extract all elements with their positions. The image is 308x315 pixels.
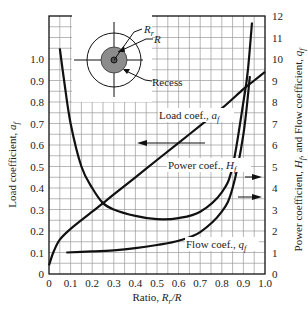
- inset-label-r: R: [153, 33, 161, 45]
- inset-label-recess: Recess: [152, 76, 183, 88]
- annotation-power: Power coef., Hf: [167, 158, 262, 180]
- y-right-tick-label: 4: [272, 182, 278, 194]
- x-tick-label: 0.5: [150, 277, 164, 289]
- y-left-tick-labels: 00.10.20.30.40.50.60.70.80.91.0: [30, 53, 44, 280]
- annotation-flow: Flow coef., qf: [185, 194, 262, 253]
- y-right-axis-title: Power coefficient, Hf, and Flow coeffici…: [292, 47, 307, 252]
- y-right-tick-label: 6: [272, 139, 278, 151]
- y-right-tick-label: 8: [272, 96, 278, 108]
- y-left-tick-label: 0.3: [30, 204, 44, 216]
- y-left-tick-label: 0.8: [30, 96, 44, 108]
- y-left-tick-label: 0.1: [30, 247, 44, 259]
- y-right-tick-label: 5: [272, 161, 278, 173]
- x-tick-label: 0: [46, 277, 52, 289]
- y-left-tick-label: 0.4: [30, 182, 44, 194]
- y-left-tick-label: 0.2: [30, 225, 44, 237]
- y-right-tick-label: 3: [272, 204, 278, 216]
- chart: 00.10.20.30.40.50.60.70.80.91.0 00.10.20…: [0, 0, 308, 315]
- x-tick-label: 0.9: [237, 277, 251, 289]
- y-left-tick-label: 0.7: [30, 118, 44, 130]
- y-left-tick-label: 1.0: [30, 53, 44, 65]
- annotation-load: Load coef., af: [137, 108, 234, 146]
- y-right-tick-label: 1: [272, 247, 278, 259]
- y-left-tick-label: 0.9: [30, 75, 44, 87]
- x-axis-title: Ratio, Rr/R: [133, 291, 182, 306]
- y-right-tick-label: 10: [272, 53, 284, 65]
- x-tick-labels: 00.10.20.30.40.50.60.70.80.91.0: [46, 277, 272, 289]
- y-right-tick-label: 0: [272, 268, 278, 280]
- x-tick-label: 1.0: [258, 277, 272, 289]
- x-tick-label: 0.8: [215, 277, 229, 289]
- y-right-tick-label: 7: [272, 118, 278, 130]
- x-tick-label: 0.3: [107, 277, 121, 289]
- y-left-tick-label: 0.5: [30, 161, 44, 173]
- right-arrow-icon: [252, 194, 262, 200]
- y-right-tick-label: 12: [272, 10, 283, 22]
- y-right-tick-label: 9: [272, 75, 278, 87]
- right-arrow-icon: [252, 174, 262, 180]
- y-right-tick-label: 2: [272, 225, 278, 237]
- x-tick-label: 0.6: [172, 277, 186, 289]
- y-right-tick-labels: 0123456789101112: [272, 10, 284, 280]
- x-tick-label: 0.7: [193, 277, 207, 289]
- x-tick-label: 0.1: [64, 277, 78, 289]
- inset-diagram: Rr R Recess: [72, 14, 183, 102]
- y-right-tick-label: 11: [272, 32, 283, 44]
- x-tick-label: 0.2: [85, 277, 99, 289]
- y-left-tick-label: 0: [39, 268, 45, 280]
- y-left-axis-title: Load coefficient, af: [6, 121, 21, 208]
- y-left-tick-label: 0.6: [30, 139, 44, 151]
- x-tick-label: 0.4: [129, 277, 143, 289]
